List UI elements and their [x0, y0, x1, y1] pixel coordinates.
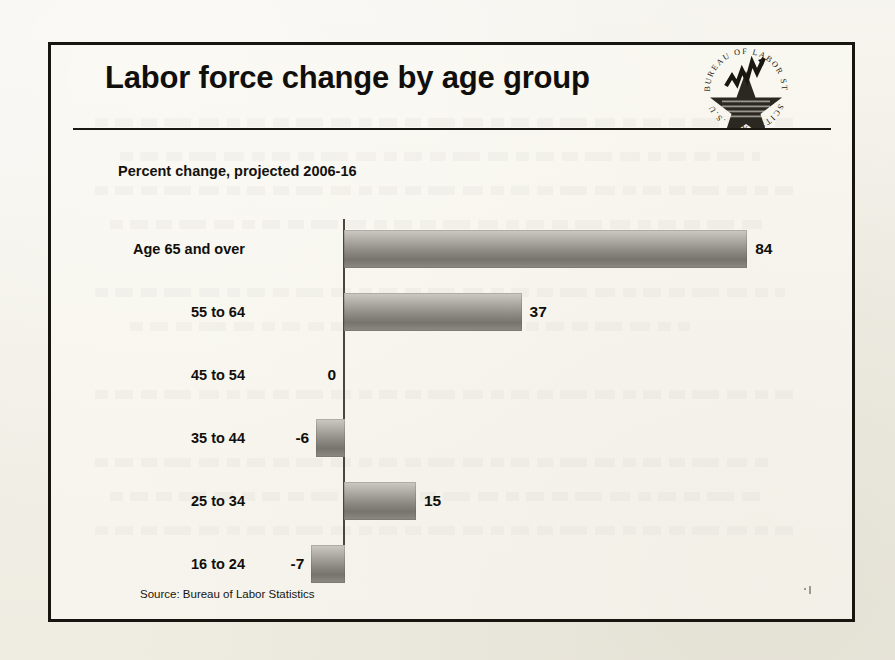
bar-row: 25 to 3415	[48, 482, 855, 520]
bar-row: 35 to 44-6	[48, 419, 855, 457]
bar-value-label: 0	[327, 356, 336, 394]
source-note: Source: Bureau of Labor Statistics	[140, 588, 315, 600]
category-label: 25 to 34	[191, 482, 245, 520]
bar	[344, 293, 522, 331]
scan-artifact-speck	[804, 586, 813, 594]
category-label: 55 to 64	[191, 293, 245, 331]
bar	[316, 419, 345, 457]
bar-row: 45 to 540	[48, 356, 855, 394]
bar	[344, 482, 416, 520]
bar	[344, 230, 747, 268]
category-label: Age 65 and over	[133, 230, 245, 268]
bar-chart-plot-area: Age 65 and over8455 to 643745 to 54035 t…	[48, 42, 855, 622]
category-label: 45 to 54	[191, 356, 245, 394]
bar-value-label: 37	[530, 293, 547, 331]
category-label: 35 to 44	[191, 419, 245, 457]
category-label: 16 to 24	[191, 545, 245, 583]
bar-value-label: -7	[291, 545, 305, 583]
bar-row: 16 to 24-7	[48, 545, 855, 583]
bar-value-label: 15	[424, 482, 441, 520]
bar	[311, 545, 345, 583]
bar-row: 55 to 6437	[48, 293, 855, 331]
zero-baseline-axis	[343, 219, 345, 579]
scanned-page: Labor force change by age group BUREAU O…	[0, 0, 895, 660]
bar-row: Age 65 and over84	[48, 230, 855, 268]
bar-value-label: -6	[295, 419, 309, 457]
bar-value-label: 84	[755, 230, 772, 268]
